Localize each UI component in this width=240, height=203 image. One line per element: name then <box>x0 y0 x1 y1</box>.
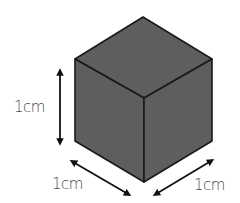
width-label: 1cm <box>194 178 225 193</box>
depth-label: 1cm <box>52 177 83 192</box>
cube <box>75 17 212 182</box>
height-label: 1cm <box>14 100 45 115</box>
